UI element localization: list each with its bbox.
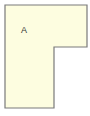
l-shape-region — [5, 5, 87, 108]
diagram-canvas: A — [0, 0, 90, 116]
region-label: A — [21, 25, 27, 35]
